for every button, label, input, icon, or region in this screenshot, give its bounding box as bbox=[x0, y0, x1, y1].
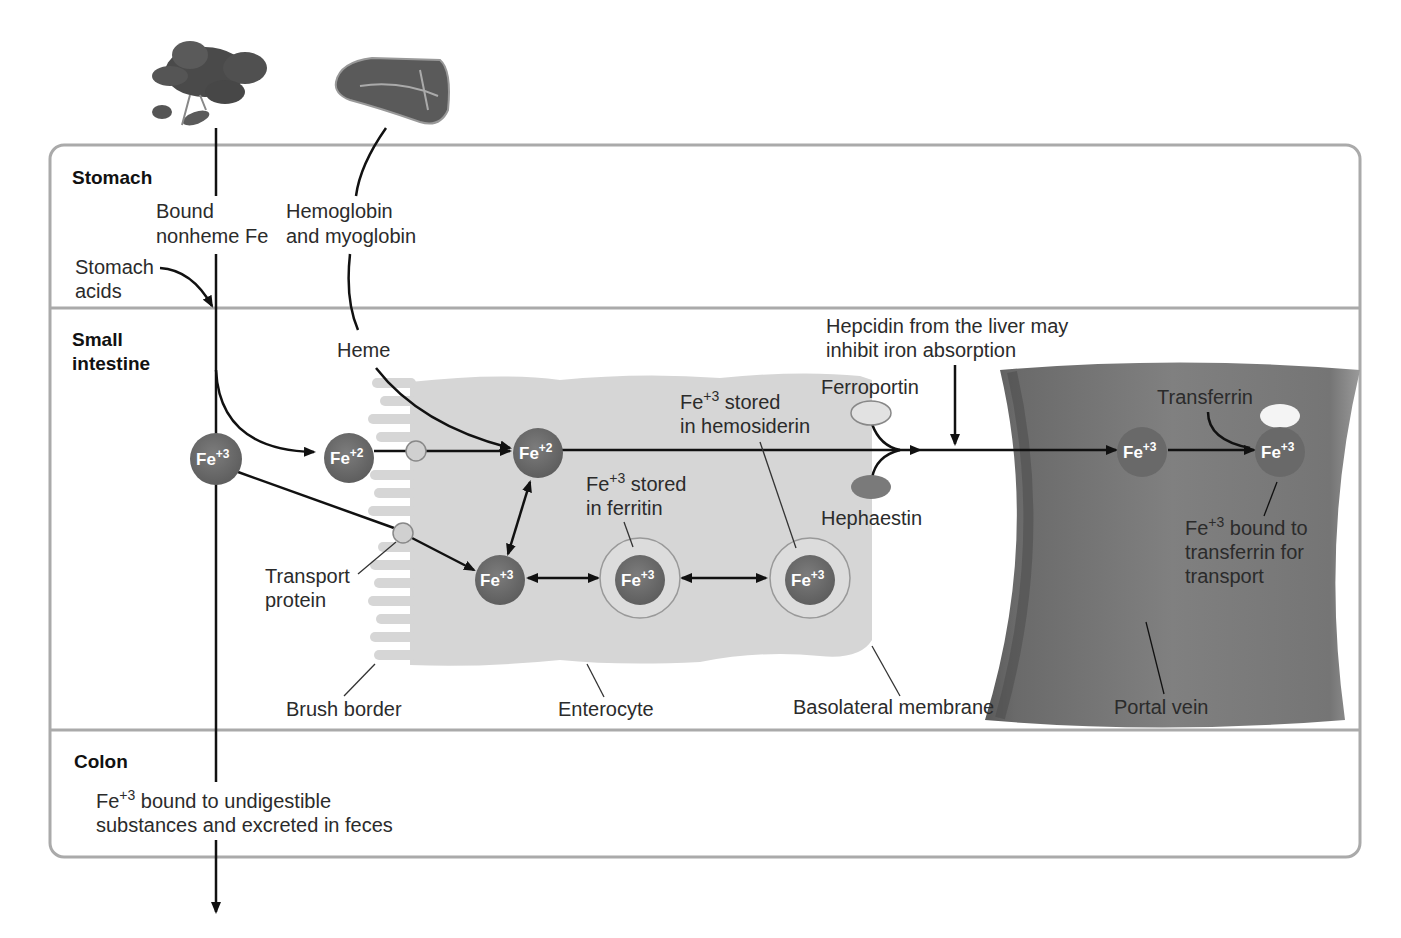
label-ferritin-2: in ferritin bbox=[586, 497, 663, 519]
label-hemoglobin-2: and myoglobin bbox=[286, 225, 416, 247]
label-hemosiderin-1: Fe+3 stored bbox=[680, 388, 780, 413]
section-stomach: Stomach bbox=[72, 167, 152, 188]
label-bound-nonheme-1: Bound bbox=[156, 200, 214, 222]
label-stomach-acids-2: acids bbox=[75, 280, 122, 302]
ion-fe3-ferritin: Fe+3 bbox=[615, 555, 665, 605]
label-hepcidin-2: inhibit iron absorption bbox=[826, 339, 1016, 361]
label-transferrin: Transferrin bbox=[1157, 386, 1253, 408]
label-bound-nonheme-2: nonheme Fe bbox=[156, 225, 268, 247]
label-hemosiderin-2: in hemosiderin bbox=[680, 415, 810, 437]
ion-fe2-cell: Fe+2 bbox=[513, 428, 563, 478]
label-basolateral-membrane: Basolateral membrane bbox=[793, 696, 994, 718]
label-hephaestin: Hephaestin bbox=[821, 507, 922, 529]
transport-protein bbox=[393, 523, 413, 543]
label-colon-excretion-2: substances and excreted in feces bbox=[96, 814, 393, 836]
label-ferritin-1: Fe+3 stored bbox=[586, 470, 686, 495]
label-bound-transferrin-3: transport bbox=[1185, 565, 1264, 587]
dmt1-transporter bbox=[406, 441, 426, 461]
label-transport-protein-1: Transport bbox=[265, 565, 350, 587]
label-hemoglobin-1: Hemoglobin bbox=[286, 200, 393, 222]
label-enterocyte: Enterocyte bbox=[558, 698, 654, 720]
label-bound-transferrin-1: Fe+3 bound to bbox=[1185, 514, 1308, 539]
leafy-greens-icon bbox=[152, 41, 267, 128]
label-portal-vein: Portal vein bbox=[1114, 696, 1209, 718]
label-heme: Heme bbox=[337, 339, 390, 361]
label-transport-protein-2: protein bbox=[265, 589, 326, 611]
label-stomach-acids-1: Stomach bbox=[75, 256, 154, 278]
ion-fe3-vein: Fe+3 bbox=[1117, 427, 1167, 477]
hephaestin-protein bbox=[851, 475, 891, 499]
label-bound-transferrin-2: transferrin for bbox=[1185, 541, 1304, 563]
ion-fe3-hemosiderin: Fe+3 bbox=[785, 555, 835, 605]
label-hepcidin-1: Hepcidin from the liver may bbox=[826, 315, 1068, 337]
ion-fe3-lumen: Fe+3 bbox=[190, 433, 242, 485]
transferrin-protein bbox=[1260, 404, 1300, 428]
ion-fe2-lumen: Fe+2 bbox=[324, 433, 374, 483]
ion-fe3-transferrin: Fe+3 bbox=[1255, 427, 1305, 477]
ferroportin-protein bbox=[851, 401, 891, 425]
steak-icon bbox=[336, 58, 449, 124]
ion-fe3-cell: Fe+3 bbox=[475, 555, 525, 605]
section-colon: Colon bbox=[74, 751, 128, 772]
label-brush-border: Brush border bbox=[286, 698, 402, 720]
section-small-intestine-2: intestine bbox=[72, 353, 150, 374]
label-ferroportin: Ferroportin bbox=[821, 376, 919, 398]
section-small-intestine-1: Small bbox=[72, 329, 123, 350]
iron-absorption-diagram: Stomach Small intestine Colon bbox=[0, 0, 1401, 938]
